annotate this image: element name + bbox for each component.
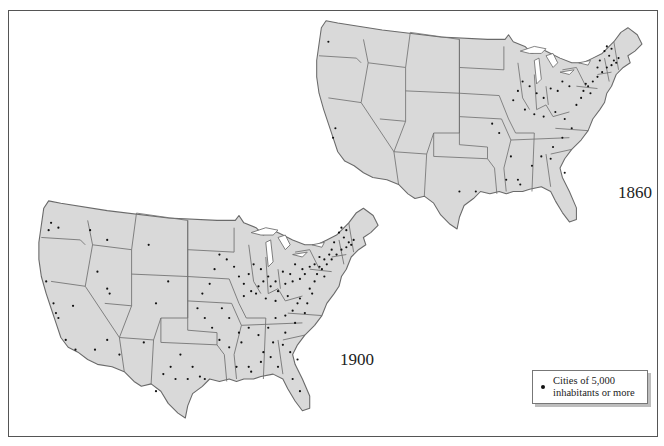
map-1860 [317,21,642,229]
city-dot-icon [541,385,545,389]
year-label-1900: 1900 [340,350,374,370]
legend-text: Cities of 5,000 inhabitants or more [553,375,635,399]
legend-line-1: Cities of 5,000 [553,375,635,387]
legend-line-2: inhabitants or more [553,387,635,399]
year-label-1860: 1860 [618,183,652,203]
map-1900 [39,201,378,418]
legend-box: Cities of 5,000 inhabitants or more [532,370,648,404]
